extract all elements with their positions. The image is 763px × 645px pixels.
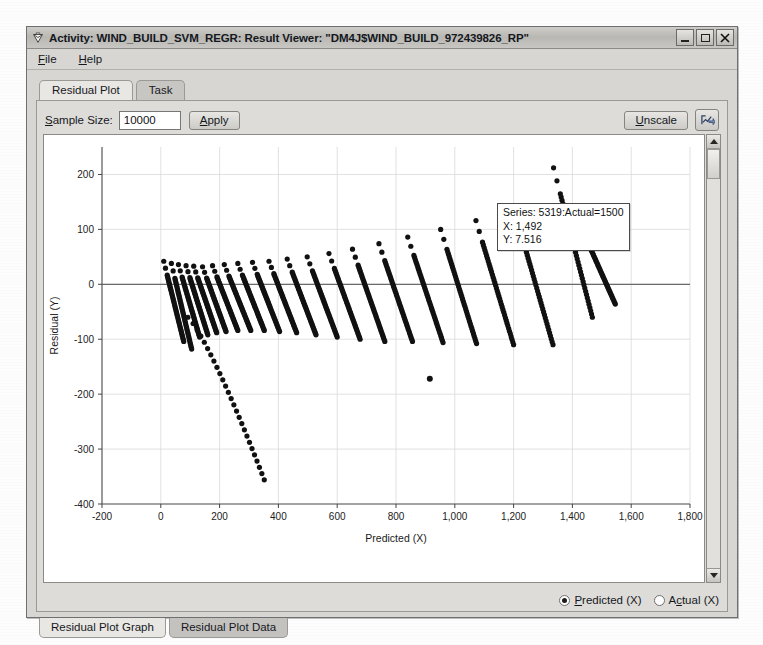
radio-predicted-x-label: Predicted (X)	[574, 594, 641, 606]
menu-file[interactable]: File	[35, 52, 60, 66]
residual-plot-panel: Sample Size: Apply Unscale	[36, 100, 728, 612]
bottom-tab-residual-plot-data[interactable]: Residual Plot Data	[169, 618, 288, 638]
tooltip-x: X: 1,492	[503, 220, 624, 234]
plot-toolbar: Sample Size: Apply Unscale	[43, 108, 721, 132]
tooltip-y: Y: 7.516	[503, 233, 624, 247]
chart-export-icon	[700, 113, 715, 127]
tab-task[interactable]: Task	[136, 80, 186, 100]
maximize-button[interactable]	[696, 29, 714, 46]
scroll-up-icon	[710, 139, 718, 144]
minimize-button[interactable]	[676, 29, 694, 46]
radio-actual-x-label: Actual (X)	[669, 594, 720, 606]
radio-actual-x-dot	[654, 595, 665, 606]
menu-help[interactable]: Help	[76, 52, 106, 66]
diamond-app-icon	[31, 31, 45, 45]
window-title: Activity: WIND_BUILD_SVM_REGR: Result Vi…	[49, 32, 529, 44]
result-viewer-window: Activity: WIND_BUILD_SVM_REGR: Result Vi…	[26, 26, 738, 618]
radio-predicted-x-dot	[559, 595, 570, 606]
tooltip-series: Series: 5319:Actual=1500	[503, 206, 624, 220]
svg-text:400: 400	[270, 511, 287, 522]
apply-button[interactable]: Apply	[189, 111, 240, 130]
scroll-down-icon	[710, 573, 718, 578]
svg-text:1,600: 1,600	[619, 511, 644, 522]
menu-file-rest: ile	[45, 53, 57, 65]
svg-text:0: 0	[158, 511, 164, 522]
scrollbar-track[interactable]	[707, 149, 720, 568]
svg-text:Residual (Y): Residual (Y)	[48, 297, 60, 355]
menu-help-rest: elp	[87, 53, 102, 65]
axis-source-radio-group: Predicted (X) Actual (X)	[559, 594, 719, 606]
svg-text:200: 200	[211, 511, 228, 522]
close-button[interactable]	[716, 29, 734, 46]
unscale-button[interactable]: Unscale	[624, 111, 688, 130]
radio-actual-x[interactable]: Actual (X)	[654, 594, 720, 606]
bottom-tab-residual-plot-graph[interactable]: Residual Plot Graph	[39, 618, 166, 638]
menu-bar: File Help	[27, 49, 737, 70]
svg-text:200: 200	[77, 169, 94, 180]
chart-area: -20002004006008001,0001,2001,4001,6001,8…	[43, 134, 721, 583]
svg-text:600: 600	[329, 511, 346, 522]
plot-svg: -20002004006008001,0001,2001,4001,6001,8…	[44, 135, 704, 550]
svg-text:1,400: 1,400	[560, 511, 585, 522]
svg-text:Predicted (X): Predicted (X)	[365, 532, 426, 544]
tab-strip: Residual Plot Task	[39, 79, 728, 100]
svg-text:1,200: 1,200	[501, 511, 526, 522]
scroll-up-button[interactable]	[707, 135, 720, 149]
plot-vertical-scrollbar[interactable]	[706, 134, 721, 583]
toolbar-right-group: Unscale	[616, 109, 719, 131]
svg-text:100: 100	[77, 224, 94, 235]
svg-text:-100: -100	[74, 334, 94, 345]
svg-text:1,800: 1,800	[677, 511, 702, 522]
svg-text:1,000: 1,000	[442, 511, 467, 522]
svg-text:-200: -200	[74, 389, 94, 400]
window-content: Residual Plot Task Sample Size: Apply Un…	[27, 71, 737, 617]
title-bar: Activity: WIND_BUILD_SVM_REGR: Result Vi…	[27, 27, 737, 49]
scroll-down-button[interactable]	[707, 568, 720, 582]
chart-export-button[interactable]	[695, 109, 719, 131]
sample-size-input[interactable]	[119, 111, 181, 130]
svg-text:800: 800	[388, 511, 405, 522]
svg-text:-200: -200	[92, 511, 112, 522]
point-tooltip: Series: 5319:Actual=1500 X: 1,492 Y: 7.5…	[497, 203, 630, 251]
tab-residual-plot[interactable]: Residual Plot	[39, 80, 133, 101]
residual-scatter-plot[interactable]: -20002004006008001,0001,2001,4001,6001,8…	[43, 134, 705, 583]
sample-size-label: Sample Size:	[45, 114, 113, 126]
close-icon	[719, 32, 731, 44]
bottom-tab-strip: Residual Plot Graph Residual Plot Data	[39, 618, 728, 638]
window-controls	[676, 29, 734, 46]
radio-predicted-x[interactable]: Predicted (X)	[559, 594, 641, 606]
svg-text:-300: -300	[74, 444, 94, 455]
svg-text:0: 0	[88, 279, 94, 290]
svg-text:-400: -400	[74, 499, 94, 510]
scrollbar-thumb[interactable]	[707, 149, 720, 179]
